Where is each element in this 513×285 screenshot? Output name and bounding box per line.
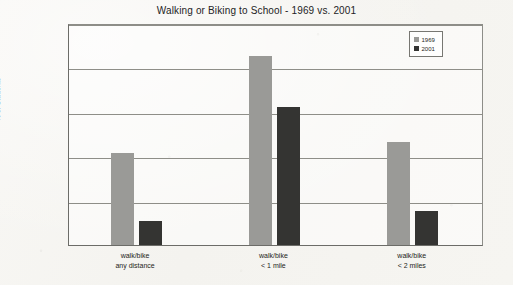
bar-2001-0	[139, 221, 162, 245]
bar-1969-0	[111, 153, 134, 245]
bar-2001-1	[277, 107, 300, 245]
category-label-line: any distance	[85, 261, 185, 271]
gridline	[69, 114, 482, 115]
legend-item: 2001	[414, 44, 435, 53]
category-label-line: walk/bike	[85, 251, 185, 261]
y-axis-title: % of Students	[0, 78, 1, 122]
bar-1969-1	[249, 56, 272, 245]
legend-label: 1969	[422, 37, 435, 43]
x-axis-category-label: walk/bikeany distance	[85, 251, 185, 270]
legend-label: 2001	[422, 46, 435, 52]
x-axis-category-label: walk/bike< 2 miles	[362, 251, 462, 270]
gridline	[69, 25, 482, 26]
legend-item: 1969	[414, 35, 435, 44]
chart-title: Walking or Biking to School - 1969 vs. 2…	[0, 5, 513, 16]
legend-swatch-icon	[414, 46, 419, 51]
chart-legend: 1969 2001	[409, 31, 443, 57]
gridline	[69, 69, 482, 70]
bar-2001-2	[415, 211, 438, 245]
bar-1969-2	[387, 142, 410, 245]
x-axis-category-label: walk/bike< 1 mile	[223, 251, 323, 270]
category-label-line: < 2 miles	[362, 261, 462, 271]
bar-chart-figure: Walking or Biking to School - 1969 vs. 2…	[0, 0, 513, 285]
category-label-line: walk/bike	[223, 251, 323, 261]
category-label-line: walk/bike	[362, 251, 462, 261]
legend-swatch-icon	[414, 37, 419, 42]
category-label-line: < 1 mile	[223, 261, 323, 271]
plot-area: 100806040200	[68, 24, 483, 246]
